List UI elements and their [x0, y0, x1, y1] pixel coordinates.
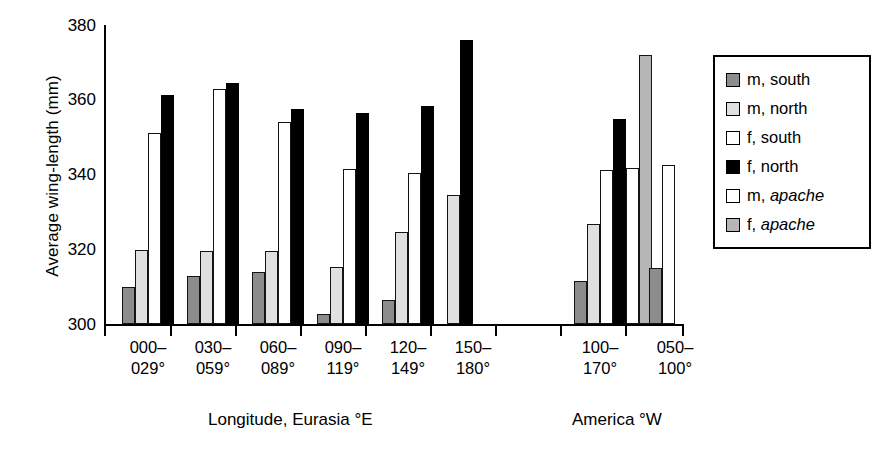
- x-category-label-6: 150–180°: [434, 337, 512, 379]
- x-axis-tick-8: [560, 326, 562, 336]
- x-axis-line: [104, 324, 684, 326]
- bar-mnorth-group-2: [200, 251, 213, 324]
- legend-label-1: m, north: [747, 99, 808, 118]
- x-category-label-8-line-1: 050–: [636, 337, 714, 358]
- legend-item-f-south[interactable]: f, south: [726, 125, 860, 150]
- bar-fsouth-group-4: [343, 169, 356, 324]
- bar-mnorth-group-5: [395, 232, 408, 324]
- x-axis-tick-7: [495, 326, 497, 336]
- bar-fnorth-group-7: [613, 119, 626, 324]
- legend-label-5: f, apache: [747, 215, 815, 234]
- x-category-label-8-line-2: 100°: [636, 358, 714, 379]
- legend: m, southm, northf, southf, northm, apach…: [713, 55, 871, 249]
- x-axis-tick-3: [235, 326, 237, 336]
- x-category-label-6-line-2: 180°: [434, 358, 512, 379]
- bar-msouth-group-2: [187, 276, 200, 324]
- bar-mnorth-group-4: [330, 267, 343, 324]
- x-axis-tick-4: [300, 326, 302, 336]
- bar-mnorth-group-6: [447, 195, 460, 324]
- y-axis-line: [104, 25, 106, 324]
- legend-label-0: m, south: [747, 70, 810, 89]
- bar-msouth-group-8: [649, 268, 662, 324]
- x-axis-tick-2: [170, 326, 172, 336]
- legend-swatch-icon-fnorth: [726, 160, 740, 174]
- bar-fnorth-group-5: [421, 106, 434, 324]
- y-tick-label-300: 300: [50, 316, 96, 333]
- bar-fnorth-group-4: [356, 113, 369, 324]
- bar-fsouth-group-3: [278, 122, 291, 324]
- x-axis-tick-9: [625, 326, 627, 336]
- bar-msouth-group-5: [382, 300, 395, 324]
- y-tick-label-380: 380: [50, 17, 96, 34]
- y-tick-label-320: 320: [50, 241, 96, 258]
- legend-item-f-apache[interactable]: f, apache: [726, 212, 860, 237]
- x-axis-tick-6: [430, 326, 432, 336]
- bar-msouth-group-1: [122, 287, 135, 324]
- legend-item-f-north[interactable]: f, north: [726, 154, 860, 179]
- x-category-label-7-line-1: 100–: [561, 337, 639, 358]
- bar-mapache-group-7: [626, 168, 639, 324]
- chart-figure: Average wing-length (mm) 380 360 340 320…: [0, 0, 885, 459]
- legend-item-m-south[interactable]: m, south: [726, 67, 860, 92]
- x-axis-tick-1: [104, 326, 106, 336]
- bar-mapache-group-8: [662, 165, 675, 324]
- legend-label-3: f, north: [747, 157, 798, 176]
- legend-item-m-apache[interactable]: m, apache: [726, 183, 860, 208]
- legend-swatch-icon-fapache: [726, 218, 740, 232]
- legend-label-2: f, south: [747, 128, 801, 147]
- x-axis-caption-eurasia: Longitude, Eurasia °E: [208, 410, 373, 430]
- bar-fnorth-group-2: [226, 83, 239, 324]
- bar-fnorth-group-6: [460, 40, 473, 324]
- y-tick-label-360: 360: [50, 91, 96, 108]
- bar-msouth-group-7: [574, 281, 587, 324]
- x-category-label-8: 050–100°: [636, 337, 714, 379]
- legend-swatch-icon-msouth: [726, 73, 740, 87]
- legend-label-4: m, apache: [747, 186, 824, 205]
- x-axis-tick-5: [365, 326, 367, 336]
- legend-swatch-icon-mapache: [726, 189, 740, 203]
- bar-msouth-group-3: [252, 272, 265, 324]
- bar-msouth-group-4: [317, 314, 330, 324]
- bar-fsouth-group-7: [600, 170, 613, 324]
- plot-area: [104, 25, 684, 324]
- bar-mnorth-group-1: [135, 250, 148, 324]
- legend-item-m-north[interactable]: m, north: [726, 96, 860, 121]
- bar-fsouth-group-1: [148, 133, 161, 324]
- bar-mnorth-group-3: [265, 251, 278, 324]
- y-tick-label-340: 340: [50, 166, 96, 183]
- x-axis-tick-10: [682, 326, 684, 336]
- bar-fnorth-group-1: [161, 95, 174, 324]
- legend-swatch-icon-mnorth: [726, 102, 740, 116]
- bar-mnorth-group-7: [587, 224, 600, 324]
- x-category-label-7-line-2: 170°: [561, 358, 639, 379]
- x-category-label-6-line-1: 150–: [434, 337, 512, 358]
- bar-fsouth-group-2: [213, 89, 226, 324]
- bar-fsouth-group-5: [408, 173, 421, 324]
- bar-fnorth-group-3: [291, 109, 304, 324]
- x-category-label-7: 100–170°: [561, 337, 639, 379]
- x-axis-caption-america: America °W: [572, 410, 662, 430]
- legend-swatch-icon-fsouth: [726, 131, 740, 145]
